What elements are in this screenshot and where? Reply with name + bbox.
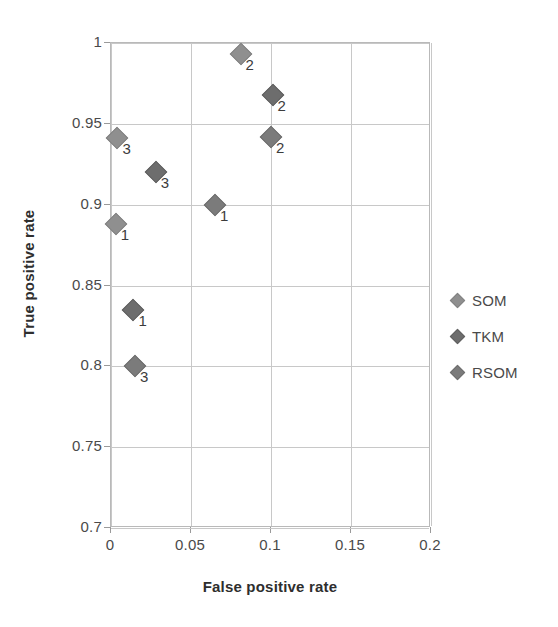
y-tick-label: 0.85	[30, 276, 102, 294]
legend-marker-icon	[450, 364, 466, 380]
x-tick-label: 0.2	[395, 536, 465, 554]
y-tick-label-text: 1	[40, 33, 102, 50]
legend-item-tkm[interactable]: TKM	[452, 318, 552, 354]
legend-marker-icon	[450, 292, 466, 308]
y-tick-label-text: 0.9	[40, 195, 102, 212]
y-tick-label: 0.95	[30, 114, 102, 132]
data-point-label: 3	[161, 175, 169, 190]
y-tick-label: 0.9	[30, 195, 102, 213]
gridline-horizontal	[111, 43, 429, 44]
gridline-vertical	[191, 43, 192, 526]
legend-item-label: SOM	[472, 292, 507, 309]
data-point-label: 3	[122, 141, 130, 156]
gridline-horizontal	[111, 366, 429, 367]
gridline-horizontal	[111, 447, 429, 448]
plot-area: 123123123	[110, 42, 430, 527]
legend-marker-icon	[450, 328, 466, 344]
x-tick-label: 0.15	[315, 536, 385, 554]
y-tick-label-text: 0.85	[40, 276, 102, 293]
data-point-label: 1	[220, 208, 228, 223]
chart-legend: SOMTKMRSOM	[452, 282, 552, 390]
data-point-label: 3	[140, 369, 148, 384]
y-tick-label: 0.8	[30, 356, 102, 374]
data-point-label: 2	[276, 140, 284, 155]
legend-item-rsom[interactable]: RSOM	[452, 354, 552, 390]
y-tick-label: 0.7	[30, 518, 102, 536]
y-tick-label-text: 0.8	[40, 356, 102, 373]
x-tick-label-text: 0.2	[419, 536, 440, 553]
data-point-label: 1	[138, 313, 146, 328]
y-axis-title: True positive rate	[20, 174, 37, 374]
gridline-vertical	[351, 43, 352, 526]
legend-item-som[interactable]: SOM	[452, 282, 552, 318]
legend-item-label: TKM	[472, 328, 504, 345]
y-tick-label-text: 0.7	[40, 518, 102, 535]
x-tick-label-text: 0.1	[259, 536, 280, 553]
gridline-vertical	[431, 43, 432, 526]
x-tick-mark	[430, 527, 431, 533]
y-tick-label-text: 0.95	[40, 114, 102, 131]
x-tick-label-text: 0.05	[175, 536, 205, 553]
x-tick-label-text: 0	[106, 536, 115, 553]
x-tick-label: 0	[75, 536, 145, 554]
y-tick-label: 1	[30, 33, 102, 51]
x-tick-label-text: 0.15	[335, 536, 365, 553]
y-tick-label: 0.75	[30, 437, 102, 455]
data-point-label: 1	[121, 227, 129, 242]
x-axis-title: False positive rate	[110, 578, 430, 595]
gridline-horizontal	[111, 528, 429, 529]
data-point-label: 2	[278, 98, 286, 113]
legend-item-label: RSOM	[472, 364, 518, 381]
gridline-vertical	[111, 43, 112, 526]
gridline-vertical	[271, 43, 272, 526]
x-tick-label: 0.1	[235, 536, 305, 554]
data-point-label: 2	[246, 57, 254, 72]
gridline-horizontal	[111, 205, 429, 206]
y-tick-label-text: 0.75	[40, 437, 102, 454]
gridline-horizontal	[111, 286, 429, 287]
scatter-chart: 0.70.750.80.850.90.951 00.050.10.150.2 1…	[0, 0, 558, 627]
x-tick-label: 0.05	[155, 536, 225, 554]
